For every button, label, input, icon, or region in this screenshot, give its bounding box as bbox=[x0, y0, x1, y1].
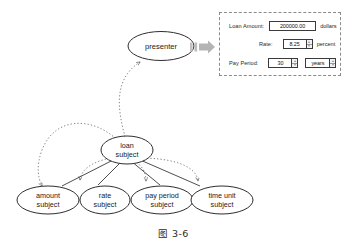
node-payperiod-subject-label-line2: subject bbox=[151, 200, 174, 209]
rate-input[interactable]: 8.25 bbox=[283, 39, 307, 49]
time-unit-select[interactable]: years bbox=[305, 58, 336, 68]
link-subject-to-presenter bbox=[119, 62, 140, 140]
chevron-down-icon[interactable] bbox=[307, 45, 312, 49]
edge-subject-rate bbox=[98, 161, 122, 185]
form-row-pay-period: Pay Period: 30 years bbox=[229, 58, 336, 68]
rate-spinner[interactable]: 8.25 bbox=[278, 39, 313, 49]
loan-amount-input[interactable]: 200000.00 bbox=[269, 21, 316, 31]
form-row-rate: Rate: 8.25 percent bbox=[259, 39, 335, 49]
node-rate-subject-label-line2: subject bbox=[94, 200, 117, 209]
node-amount-subject-label-line2: subject bbox=[37, 200, 60, 209]
link-timeunit-to-subject bbox=[140, 158, 198, 181]
pay-period-spinner-arrows[interactable] bbox=[292, 58, 298, 68]
chevron-down-icon[interactable] bbox=[330, 64, 335, 68]
pay-period-label: Pay Period: bbox=[229, 60, 258, 66]
chevron-down-icon[interactable] bbox=[292, 64, 297, 68]
node-presenter-label: presenter bbox=[145, 42, 178, 51]
time-unit-select-arrows[interactable] bbox=[330, 58, 336, 68]
rate-label: Rate: bbox=[259, 41, 273, 47]
node-timeunit-subject-label-line2: subject bbox=[211, 200, 234, 209]
edge-subject-payperiod bbox=[131, 161, 160, 185]
pay-period-input[interactable]: 30 bbox=[268, 58, 292, 68]
edge-subject-amount bbox=[62, 159, 115, 186]
pay-period-spinner[interactable]: 30 bbox=[263, 58, 298, 68]
edge-subject-timeunit bbox=[138, 159, 200, 186]
rate-spinner-arrows[interactable] bbox=[307, 39, 313, 49]
time-unit-select-value[interactable]: years bbox=[305, 58, 330, 68]
rate-unit: percent bbox=[317, 41, 336, 47]
figure-stage: presenter loan subject amount subject ra… bbox=[0, 0, 347, 249]
figure-caption: 图 3-6 bbox=[0, 226, 347, 240]
form-row-loan-amount: Loan Amount: 200000.00 dollars bbox=[229, 21, 337, 31]
loan-form-panel: Loan Amount: 200000.00 dollars Rate: 8.2… bbox=[219, 12, 341, 76]
node-loan-subject-label-line2: subject bbox=[116, 150, 139, 159]
loan-amount-label: Loan Amount: bbox=[229, 23, 264, 29]
loan-amount-unit: dollars bbox=[320, 23, 336, 29]
